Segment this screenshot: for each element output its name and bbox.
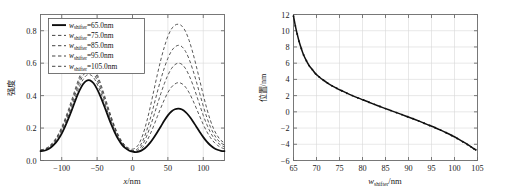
data-point-marker (451, 135, 453, 137)
data-point-marker (385, 108, 387, 110)
data-point-marker (293, 15, 295, 17)
right-y-axis-title: 位置/nm (258, 73, 268, 102)
right-curve-group (294, 16, 476, 150)
data-point-marker (418, 120, 420, 122)
data-point-marker (351, 95, 353, 97)
x-tick-label: 80 (358, 164, 366, 173)
left-legend: wshifter=65.0nmwshifter=75.0nmwshifter=8… (49, 19, 145, 74)
chart-panel-left: −100−50050100 0.00.20.40.60.8 x/nm 强度 ws… (0, 0, 253, 193)
y-tick-label: 8 (285, 43, 289, 52)
y-tick-label: −4 (281, 140, 290, 149)
data-point-marker (379, 106, 381, 108)
right-x-tick-labels: 65707580859095100105 (289, 164, 483, 173)
data-point-marker (362, 99, 364, 101)
y-tick-label: 2 (285, 92, 289, 101)
y-tick-label: 0.8 (26, 27, 36, 36)
x-tick-label: 100 (448, 164, 460, 173)
y-tick-label: 0.4 (26, 92, 36, 101)
data-point-marker (429, 125, 431, 127)
x-tick-label: 0 (130, 164, 134, 173)
data-point-marker (331, 85, 333, 87)
y-tick-label: 0 (285, 108, 289, 117)
data-point-marker (322, 79, 324, 81)
y-tick-label: 4 (285, 75, 289, 84)
x-tick-label: 70 (312, 164, 320, 173)
data-point-marker (456, 137, 458, 139)
y-tick-label: 0.2 (26, 124, 36, 133)
left-y-axis-title: 强度 (6, 80, 16, 96)
y-tick-label: −6 (281, 157, 290, 166)
data-point-marker (374, 103, 376, 105)
data-point-marker (390, 110, 392, 112)
y-tick-label: 12 (281, 11, 289, 20)
x-tick-label: 75 (335, 164, 343, 173)
left-chart-svg: −100−50050100 0.00.20.40.60.8 x/nm 强度 ws… (0, 0, 253, 193)
data-point-marker (462, 141, 464, 143)
data-point-marker (298, 40, 300, 42)
data-point-marker (308, 65, 310, 67)
left-x-axis-title: x/nm (122, 176, 141, 186)
data-point-marker (440, 129, 442, 131)
data-point-marker (311, 69, 313, 71)
data-point-marker (466, 143, 468, 145)
right-y-tick-labels: −6−4−2024681012 (281, 11, 290, 166)
right-gridlines (294, 15, 478, 161)
data-point-marker (434, 127, 436, 129)
data-point-marker (473, 148, 475, 150)
chart-panel-right: 65707580859095100105 −6−4−2024681012 wsh… (253, 0, 506, 193)
data-point-marker (368, 101, 370, 103)
y-tick-label: 6 (285, 59, 289, 68)
x-tick-label: 50 (164, 164, 172, 173)
data-point-marker (475, 149, 477, 151)
data-point-marker (412, 118, 414, 120)
data-point-marker (407, 116, 409, 118)
data-point-marker (315, 73, 317, 75)
data-point-marker (401, 114, 403, 116)
x-tick-label: 105 (471, 164, 483, 173)
data-point-marker (318, 76, 320, 78)
data-curve-position (294, 16, 476, 150)
figure-container: −100−50050100 0.00.20.40.60.8 x/nm 强度 ws… (0, 0, 506, 193)
y-tick-label: −2 (281, 124, 290, 133)
x-tick-label: 65 (289, 164, 297, 173)
right-x-axis-title: wshifter/nm (368, 176, 402, 187)
data-point-marker (305, 60, 307, 62)
data-point-marker (341, 90, 343, 92)
left-y-tick-labels: 0.00.20.40.60.8 (26, 27, 36, 166)
x-tick-label: −100 (53, 164, 70, 173)
data-point-marker (396, 112, 398, 114)
right-marker-dots (293, 15, 477, 151)
data-point-marker (303, 54, 305, 56)
data-point-marker (357, 97, 359, 99)
data-point-marker (470, 146, 472, 148)
x-tick-label: 90 (404, 164, 412, 173)
data-point-marker (327, 82, 329, 84)
y-tick-label: 10 (281, 27, 289, 36)
x-tick-label: −50 (91, 164, 104, 173)
data-point-marker (294, 25, 296, 27)
x-tick-label: 100 (197, 164, 209, 173)
y-tick-label: 0.0 (26, 157, 36, 166)
x-tick-label: 85 (381, 164, 389, 173)
data-point-marker (296, 33, 298, 35)
data-point-marker (346, 92, 348, 94)
data-point-marker (423, 122, 425, 124)
data-point-marker (300, 48, 302, 50)
data-point-marker (336, 87, 338, 89)
data-point-marker (445, 132, 447, 134)
right-chart-svg: 65707580859095100105 −6−4−2024681012 wsh… (253, 0, 506, 193)
x-tick-label: 95 (427, 164, 435, 173)
left-x-tick-labels: −100−50050100 (53, 164, 209, 173)
y-tick-label: 0.6 (26, 59, 36, 68)
